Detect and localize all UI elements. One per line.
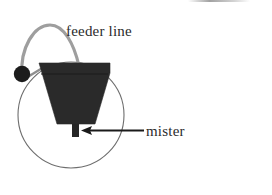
diagram-graphics	[0, 0, 272, 195]
diagram-canvas: feeder line mister	[0, 0, 272, 195]
feeder-line-label: feeder line	[66, 24, 132, 39]
plant-pot-icon	[39, 63, 110, 124]
mister-label: mister	[146, 124, 185, 139]
emitter-dot-icon	[14, 66, 30, 82]
mister-device-icon	[72, 124, 79, 137]
